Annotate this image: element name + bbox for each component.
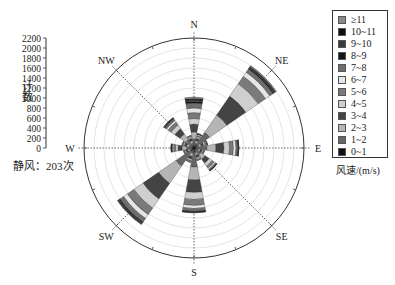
petal-segment [178,145,182,151]
y-tick-label: 2000 [22,44,41,54]
legend-swatch [338,148,346,156]
y-tick-label: 600 [27,114,42,124]
legend-swatch [338,16,346,24]
outer-tick [92,106,95,107]
legend-item: 9~10 [338,38,387,50]
petal-segment [186,179,202,192]
direction-label: N [190,19,197,30]
petal-segment [188,113,201,119]
legend-item: 0~1 [338,146,387,158]
y-tick-label: 400 [27,124,42,134]
petal-segment [188,167,200,180]
petal-segment [190,124,199,132]
legend-item: 2~3 [338,122,387,134]
legend-swatch [338,88,346,96]
legend-swatch [338,76,346,84]
legend-item: 3~4 [338,110,387,122]
outer-tick [293,189,296,190]
outer-tick [152,46,153,49]
petal-segment [184,199,205,206]
y-tick-label: 2200 [22,34,41,44]
petal-segment [174,144,176,151]
outer-tick [152,247,153,250]
y-axis-label: 计数 [19,80,35,102]
petal-segment [189,119,200,125]
legend-swatch [338,52,346,60]
calm-wind-annotation: 静风：203次 [13,157,74,173]
outer-tick [92,189,95,190]
petal-segment [175,145,178,152]
legend-item: 6~7 [338,74,387,86]
legend-swatch [338,136,346,144]
y-tick-label: 0 [36,144,41,154]
petal-segment [182,146,187,150]
petal-segment [185,192,204,200]
direction-label: SW [99,231,115,242]
y-tick-label: 200 [27,134,42,144]
legend-item: 8~9 [338,50,387,62]
legend-item: 1~2 [338,134,387,146]
y-tick-label: 1600 [22,64,41,74]
legend-item: 4~5 [338,98,387,110]
direction-label: NW [98,55,115,66]
petal-segment [187,108,202,113]
legend-swatch [338,64,346,72]
direction-label: W [65,143,75,154]
legend-swatch [338,112,346,120]
y-tick-label: 1800 [22,54,41,64]
direction-label: S [191,267,197,278]
petal-segment [186,103,202,109]
legend-swatch [338,124,346,132]
legend: ≥11 10~11 9~10 8~9 7~8 6~7 5~6 4~5 3~4 2… [332,10,388,158]
legend-title: 风速/(m/s) [336,162,380,177]
outer-tick [293,106,296,107]
legend-swatch [338,28,346,36]
legend-item: ≥11 [338,14,387,26]
direction-label: E [315,143,321,154]
petal-segment [223,142,229,155]
outer-tick [235,247,236,250]
outer-tick [235,46,236,49]
petal-segment [207,144,216,152]
legend-item: 7~8 [338,62,387,74]
legend-swatch [338,40,346,48]
direction-label: SE [276,231,288,242]
legend-item: 10~11 [338,26,387,38]
legend-item: 5~6 [338,86,387,98]
legend-swatch [338,100,346,108]
y-tick-label: 800 [27,104,42,114]
petal-segment [229,141,234,155]
petal-segment [216,143,224,154]
direction-label: NE [275,55,288,66]
